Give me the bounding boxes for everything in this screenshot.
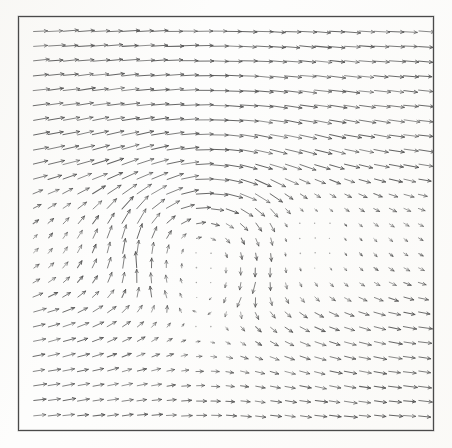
vector-arrow-head <box>367 403 370 404</box>
vector-arrow-head <box>413 373 416 374</box>
vector-arrow-shaft <box>108 173 123 180</box>
vector-arrow-head <box>345 240 346 241</box>
vector-arrow-head <box>277 388 280 389</box>
vector-arrow-head <box>44 175 47 176</box>
vector-arrow-head <box>154 242 155 245</box>
vector-arrow-head <box>415 167 418 168</box>
vector-arrow-shaft <box>93 306 102 312</box>
vector-arrow-head <box>354 403 357 404</box>
vector-arrow-shaft <box>123 184 137 194</box>
vector-arrow-head <box>414 92 417 93</box>
vector-arrow-head <box>414 387 417 388</box>
vector-arrow-shaft <box>108 185 121 194</box>
vector-arrow-head <box>136 88 139 89</box>
vector-arrow-shaft <box>48 31 62 32</box>
vector-arrow-head <box>337 359 340 360</box>
vector-arrow-shaft <box>93 201 102 209</box>
vector-arrow-head <box>275 374 278 375</box>
vector-arrow-head <box>289 199 292 200</box>
vector-arrow-head <box>245 373 248 374</box>
vector-arrow-head <box>72 353 75 354</box>
vector-arrow-shaft <box>137 173 153 180</box>
vector-arrow-head <box>313 93 316 94</box>
vector-arrow <box>210 326 212 328</box>
vector-arrow-head <box>397 373 400 374</box>
vector-arrow-shaft <box>240 194 256 200</box>
vector-arrow-head <box>90 73 93 74</box>
vector-arrow-head <box>43 308 46 309</box>
vector-arrow-head <box>383 359 386 360</box>
vector-arrow-head <box>121 87 124 88</box>
arrow-group <box>33 29 434 419</box>
vector-arrow-head <box>298 138 301 139</box>
vector-arrow-head <box>130 399 133 400</box>
vector-arrow-head <box>129 383 132 384</box>
vector-arrow-head <box>352 388 355 389</box>
vector-arrow-head <box>415 151 418 152</box>
vector-arrow-head <box>239 198 242 199</box>
vector-arrow-head <box>355 152 358 153</box>
vector-arrow <box>300 253 302 255</box>
vector-arrow-shaft <box>270 194 282 202</box>
vector-arrow-head <box>195 161 198 162</box>
vector-arrow-shaft <box>122 172 137 179</box>
vector-arrow-head <box>358 138 361 139</box>
vector-arrow-head <box>71 383 74 384</box>
vector-arrow-head <box>115 398 118 399</box>
vector-arrow-shaft <box>271 180 285 187</box>
vector-arrow-head <box>115 383 118 384</box>
vector-arrow-head <box>150 144 153 145</box>
vector-arrow-shaft <box>49 45 65 46</box>
vector-arrow-head <box>158 383 161 384</box>
vector-arrow-head <box>400 92 403 93</box>
vector-arrow <box>315 237 316 238</box>
vector-arrow-head <box>57 338 60 339</box>
vector-arrow-shaft <box>226 120 243 121</box>
vector-arrow <box>196 297 197 298</box>
vector-arrow-head <box>230 373 233 374</box>
vector-arrow-head <box>412 358 415 359</box>
vector-arrow-head <box>342 138 345 139</box>
vector-arrow <box>314 223 315 224</box>
vector-arrow-head <box>139 240 140 243</box>
vector-arrow <box>196 282 197 283</box>
vector-arrow-shaft <box>345 46 360 47</box>
vector-arrow-shaft <box>122 46 138 47</box>
vector-arrow-head <box>399 182 402 183</box>
vector-arrow-head <box>231 387 234 388</box>
vector-arrow-head <box>41 369 44 370</box>
vector-arrow-head <box>299 93 302 94</box>
vector-arrow-head <box>278 402 281 403</box>
vector-arrow-head <box>100 398 103 399</box>
vector-arrow-head <box>412 315 415 316</box>
vector-arrow-shaft <box>152 186 167 194</box>
vector-arrow-head <box>336 403 339 404</box>
vector-arrow-head <box>382 344 385 345</box>
vector-arrow-head <box>284 108 287 109</box>
vector-arrow-head <box>225 314 226 317</box>
vector-arrow-head <box>313 154 316 155</box>
vector-arrow-head <box>399 359 402 360</box>
vector-arrow <box>329 238 330 239</box>
vector-arrow-head <box>428 388 431 389</box>
vector-arrow-shaft <box>404 46 418 47</box>
vector-arrow-head <box>342 78 345 79</box>
vector-arrow-head <box>367 416 370 417</box>
vector-arrow-shaft <box>122 159 138 165</box>
vector-arrow-head <box>356 93 359 94</box>
vector-arrow-head <box>400 167 403 168</box>
vector-arrow-head <box>352 359 355 360</box>
vector-arrow-shaft <box>34 31 48 32</box>
vector-arrow-head <box>425 300 428 301</box>
vector-arrow-head <box>98 216 99 219</box>
vector-arrow-head <box>386 167 389 168</box>
vector-arrow-head <box>220 210 223 211</box>
vector-arrow <box>196 267 198 269</box>
vector-arrow-shaft <box>329 31 344 32</box>
vector-arrow-shaft <box>271 209 278 217</box>
vector-arrow-head <box>328 107 331 108</box>
vector-arrow-head <box>387 137 390 138</box>
vector-arrow-head <box>331 211 333 212</box>
vector-arrow-head <box>299 153 302 154</box>
vector-arrow-head <box>337 388 340 389</box>
